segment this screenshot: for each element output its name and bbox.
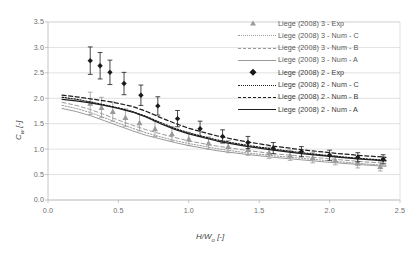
y-tick-label: 2.5 (18, 68, 44, 77)
legend-item[interactable]: Liege (2008) 3 - Exp (236, 17, 344, 29)
legend-line-dotted-icon (238, 85, 276, 86)
chart-figure: 0.00.51.01.52.02.53.03.5 0.00.51.01.52.0… (0, 0, 416, 256)
data-point-diamond (121, 81, 126, 86)
legend-key-dotted-icon (236, 79, 276, 91)
x-tick-label: 2.0 (316, 206, 344, 215)
data-point-diamond (155, 103, 160, 108)
data-point-diamond (138, 93, 143, 98)
legend-line-dotted-icon (238, 35, 276, 36)
data-point-triangle (110, 109, 116, 114)
data-point-triangle (122, 115, 128, 120)
legend-key-dashed-icon (236, 91, 276, 103)
y-tick-label: 0.0 (18, 195, 44, 204)
x-axis-title: H/Wo [-] (196, 232, 224, 243)
y-axis-title-unit: [-] (14, 121, 23, 130)
legend-item[interactable]: Liege (2008) 2 - Num - B (236, 91, 358, 103)
x-tick-label: 2.5 (386, 206, 414, 215)
legend-item-label: Liege (2008) 3 - Num - A (276, 55, 358, 64)
legend-triangle-marker-icon (250, 21, 256, 26)
y-axis-title: Cw [-] (14, 121, 25, 140)
legend-item[interactable]: Liege (2008) 2 - Num - A (236, 103, 358, 115)
legend-key-diamond-icon (236, 66, 276, 78)
legend-item-label: Liege (2008) 3 - Exp (276, 19, 344, 28)
y-tick-label: 3.0 (18, 43, 44, 52)
legend-key-solid-icon (236, 103, 276, 115)
data-point-diamond (97, 63, 102, 68)
legend-key-dashed-icon (236, 42, 276, 54)
data-point-triangle (137, 120, 143, 125)
data-point-diamond (107, 70, 112, 75)
legend-line-solid-icon (238, 109, 276, 110)
legend-item[interactable]: Liege (2008) 3 - Num - C (236, 29, 359, 41)
legend-diamond-marker-icon (250, 69, 256, 75)
legend-item-label: Liege (2008) 2 - Num - A (276, 105, 358, 114)
legend-key-dotted-icon (236, 29, 276, 41)
legend-item[interactable]: Liege (2008) 2 - Exp (236, 66, 344, 78)
y-axis-title-sub: w (19, 130, 25, 134)
y-tick-label: 3.5 (18, 17, 44, 26)
legend-item[interactable]: Liege (2008) 2 - Num - C (236, 79, 359, 91)
legend-item-label: Liege (2008) 2 - Exp (276, 68, 344, 77)
legend-item-label: Liege (2008) 2 - Num - C (276, 80, 359, 89)
legend-line-dashed-icon (238, 48, 276, 49)
legend-item-label: Liege (2008) 3 - Num - B (276, 43, 358, 52)
x-axis-title-text: H/W (196, 232, 212, 241)
legend-key-solid-icon (236, 54, 276, 66)
x-tick-label: 1.5 (245, 206, 273, 215)
legend-line-dashed-icon (238, 97, 276, 98)
legend-item[interactable]: Liege (2008) 3 - Num - A (236, 54, 358, 66)
legend-item-label: Liege (2008) 2 - Num - B (276, 92, 358, 101)
data-point-triangle (169, 131, 175, 136)
x-tick-label: 1.0 (175, 206, 203, 215)
legend-line-solid-icon (238, 60, 276, 61)
data-point-diamond (175, 116, 180, 121)
legend-item-label: Liege (2008) 3 - Num - C (276, 31, 359, 40)
legend-key-triangle-icon (236, 17, 276, 29)
x-tick-label: 0.0 (34, 206, 62, 215)
x-axis-title-unit: [-] (215, 232, 224, 241)
x-tick-label: 0.5 (104, 206, 132, 215)
y-tick-label: 1.0 (18, 145, 44, 154)
y-axis-title-text: C (14, 134, 23, 140)
y-tick-label: 2.0 (18, 94, 44, 103)
legend-item[interactable]: Liege (2008) 3 - Num - B (236, 42, 358, 54)
y-tick-label: 0.5 (18, 170, 44, 179)
data-point-triangle (152, 126, 158, 131)
data-point-diamond (88, 58, 93, 63)
